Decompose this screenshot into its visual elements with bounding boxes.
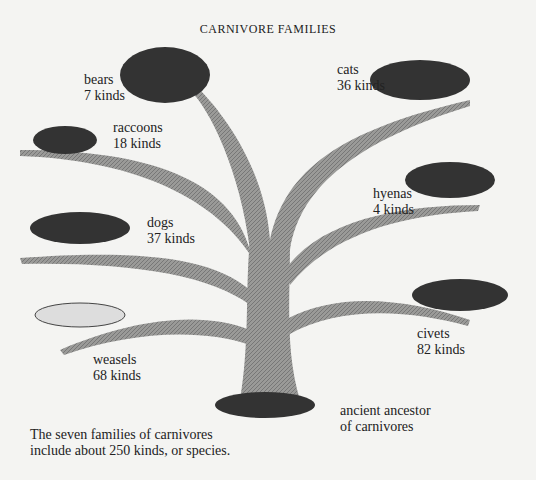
family-count: 36 kinds [337,78,385,94]
label-bears: bears 7 kinds [84,72,125,104]
label-dogs: dogs 37 kinds [147,215,195,247]
family-name: hyenas [373,186,414,202]
label-weasels: weasels 68 kinds [93,352,141,384]
label-raccoons: raccoons 18 kinds [113,120,163,152]
family-name: dogs [147,215,195,231]
ancestor-figure [215,392,315,418]
diagram-title: CARNIVORE FAMILIES [0,22,536,37]
raccoon-figure [33,126,97,154]
ancestor-line1: ancient ancestor [340,403,431,419]
family-name: raccoons [113,120,163,136]
family-name: cats [337,62,385,78]
caption: The seven families of carnivores include… [30,427,230,459]
family-count: 68 kinds [93,368,141,384]
family-count: 4 kinds [373,202,414,218]
family-count: 18 kinds [113,136,163,152]
family-count: 7 kinds [84,88,125,104]
label-ancestor: ancient ancestor of carnivores [340,403,431,435]
caption-line1: The seven families of carnivores [30,427,230,443]
weasel-figure [35,303,125,327]
label-civets: civets 82 kinds [417,326,465,358]
family-name: bears [84,72,125,88]
family-count: 37 kinds [147,231,195,247]
label-hyenas: hyenas 4 kinds [373,186,414,218]
civet-figure [412,279,508,311]
bear-figure [120,47,210,103]
hyena-figure [405,162,495,198]
family-name: weasels [93,352,141,368]
ancestor-line2: of carnivores [340,419,431,435]
label-cats: cats 36 kinds [337,62,385,94]
caption-line2: include about 250 kinds, or species. [30,443,230,459]
family-count: 82 kinds [417,342,465,358]
family-name: civets [417,326,465,342]
family-tree-illustration [0,0,536,480]
dog-figure [30,212,130,244]
cat-figure [370,60,470,100]
